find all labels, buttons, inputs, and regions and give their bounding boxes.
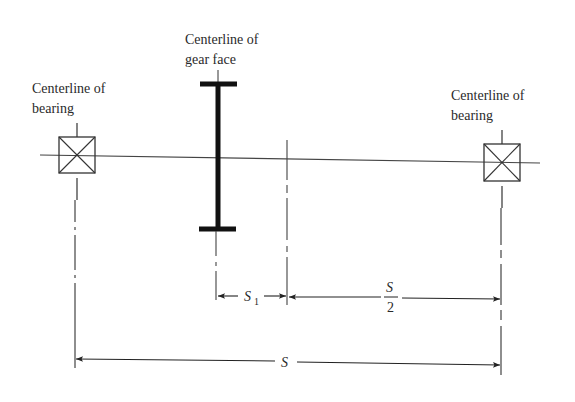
half-span-denominator: 2 <box>387 300 394 315</box>
right-bearing-label-line2: bearing <box>451 108 493 123</box>
s1-dimension: S 1 <box>218 289 286 307</box>
shaft-axis-line <box>40 155 540 163</box>
s1-subscript: 1 <box>254 296 259 307</box>
span-dimension: S <box>76 355 500 370</box>
half-span-numerator: S <box>386 280 393 295</box>
gear-face-label-line1: Centerline of <box>185 32 259 47</box>
span-label: S <box>281 355 288 370</box>
right-bearing-symbol <box>484 130 520 208</box>
s1-label: S <box>244 289 251 304</box>
diagram-canvas: Centerline of bearing Centerline of gear… <box>0 0 575 402</box>
left-bearing-label-line2: bearing <box>32 101 74 116</box>
gear-face-symbol <box>199 70 237 229</box>
half-span-dimension: S 2 <box>289 280 500 315</box>
left-bearing-symbol <box>59 123 95 200</box>
gear-face-label-line2: gear face <box>185 52 236 67</box>
left-bearing-label-line1: Centerline of <box>32 81 106 96</box>
right-bearing-label-line1: Centerline of <box>451 88 525 103</box>
